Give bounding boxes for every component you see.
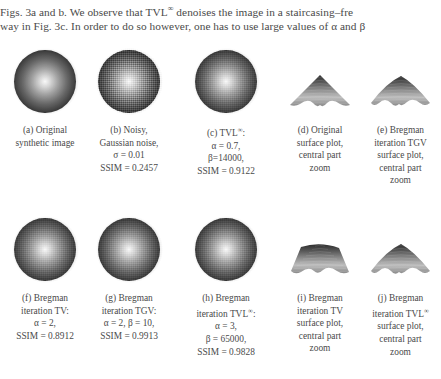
figure-panel-g: (g) Bregmaniteration TGV:α = 2, β = 10,S… <box>88 212 170 342</box>
figure-panel-j: (j) Bregmaniteration TVL∞surface plot,ce… <box>360 212 441 358</box>
figure-thumbnail-e <box>360 44 441 119</box>
caption-line: iteration TGV: <box>88 305 170 318</box>
figure-panel-c: (c) TVL∞:α = 0.7,β=14000,SSIM = 0.9122 <box>172 44 280 178</box>
surface-plot-i <box>287 235 353 283</box>
caption-line: β = 65000, <box>172 333 280 346</box>
figure-row-bottom: (f) Bregmaniteration TV:α = 2,SSIM = 0.8… <box>0 212 441 379</box>
infinity-superscript: ∞ <box>168 4 174 13</box>
caption-line: (d) Original <box>282 124 358 137</box>
figure-panel-b: (b) Noisy,Gaussian noise,σ = 0.01SSIM = … <box>88 44 170 174</box>
infinity-superscript: ∞ <box>248 307 253 314</box>
figure-thumbnail-d <box>282 44 358 119</box>
figure-thumbnail-i <box>282 212 358 287</box>
figure-caption-b: (b) Noisy,Gaussian noise,σ = 0.01SSIM = … <box>88 124 170 174</box>
caption-line: α = 2, β = 10, <box>88 317 170 330</box>
figure-panel-f: (f) Bregmaniteration TV:α = 2,SSIM = 0.8… <box>4 212 86 342</box>
figure-caption-j: (j) Bregmaniteration TVL∞surface plot,ce… <box>360 292 441 358</box>
figure-panel-i: (i) Bregmaniteration TVsurface plot,cent… <box>282 212 358 355</box>
caption-line: zoom <box>282 342 358 355</box>
caption-line: β=14000, <box>172 152 280 165</box>
caption-line: (j) Bregman <box>360 292 441 305</box>
caption-line: surface plot, <box>282 137 358 150</box>
caption-line: (f) Bregman <box>4 292 86 305</box>
figure-thumbnail-a <box>4 44 86 119</box>
synthetic-disc-image <box>9 212 82 287</box>
body-line-2: way in Fig. 3c. In order to do so howeve… <box>0 18 441 36</box>
caption-line: surface plot, <box>360 149 441 162</box>
figure-panel-d: (d) Originalsurface plot,central partzoo… <box>282 44 358 174</box>
caption-line: iteration TVL∞: <box>172 305 280 321</box>
figure-caption-e: (e) Bregmaniteration TGVsurface plot,cen… <box>360 124 441 187</box>
infinity-superscript: ∞ <box>424 307 429 314</box>
synthetic-disc-image <box>9 44 82 119</box>
caption-line: (h) Bregman <box>172 292 280 305</box>
caption-line: (i) Bregman <box>282 292 358 305</box>
figure-panel-grid: (a) Originalsynthetic image(b) Noisy,Gau… <box>0 44 441 379</box>
figure-thumbnail-b <box>88 44 170 119</box>
synthetic-disc-image <box>93 212 166 287</box>
disc-layer-edge <box>9 44 82 119</box>
caption-line: iteration TGV <box>360 137 441 150</box>
figure-caption-c: (c) TVL∞:α = 0.7,β=14000,SSIM = 0.9122 <box>172 124 280 178</box>
caption-line: σ = 0.01 <box>88 149 170 162</box>
synthetic-disc-image <box>93 44 166 119</box>
disc-layer-edge <box>190 44 263 119</box>
caption-line: iteration TV <box>282 305 358 318</box>
figure-panel-h: (h) Bregmaniteration TVL∞:α = 3,β = 6500… <box>172 212 280 358</box>
disc-layer-edge <box>9 212 82 287</box>
caption-line: (a) Original <box>4 124 86 137</box>
caption-line: central part <box>282 330 358 343</box>
figure-row-top: (a) Originalsynthetic image(b) Noisy,Gau… <box>0 44 441 212</box>
infinity-superscript: ∞ <box>238 126 243 133</box>
figure-thumbnail-h <box>172 212 280 287</box>
caption-line: synthetic image <box>4 137 86 150</box>
caption-line: zoom <box>360 346 441 359</box>
caption-line: (b) Noisy, <box>88 124 170 137</box>
caption-line: central part <box>282 149 358 162</box>
disc-layer-edge <box>93 212 166 287</box>
caption-line: surface plot, <box>282 317 358 330</box>
figure-thumbnail-c <box>172 44 280 119</box>
disc-layer-edge <box>190 212 263 287</box>
caption-line: SSIM = 0.2457 <box>88 162 170 175</box>
caption-line: α = 2, <box>4 317 86 330</box>
caption-line: SSIM = 0.8912 <box>4 330 86 343</box>
figure-thumbnail-g <box>88 212 170 287</box>
caption-line: (e) Bregman <box>360 124 441 137</box>
caption-line: surface plot, <box>360 320 441 333</box>
synthetic-disc-image <box>190 44 263 119</box>
caption-line: SSIM = 0.9122 <box>172 165 280 178</box>
surface-plot-j <box>368 235 434 283</box>
figure-thumbnail-f <box>4 212 86 287</box>
synthetic-disc-image <box>190 212 263 287</box>
figure-thumbnail-j <box>360 212 441 287</box>
disc-layer-edge <box>93 44 166 119</box>
figure-caption-f: (f) Bregmaniteration TV:α = 2,SSIM = 0.8… <box>4 292 86 342</box>
caption-line: zoom <box>360 174 441 187</box>
figure-panel-a: (a) Originalsynthetic image <box>4 44 86 149</box>
figure-caption-a: (a) Originalsynthetic image <box>4 124 86 149</box>
figure-caption-d: (d) Originalsurface plot,central partzoo… <box>282 124 358 174</box>
figure-caption-i: (i) Bregmaniteration TVsurface plot,cent… <box>282 292 358 355</box>
caption-line: SSIM = 0.9828 <box>172 346 280 359</box>
caption-line: zoom <box>282 162 358 175</box>
body-paragraph: Figs. 3a and b. We observe that TVL∞ den… <box>0 0 441 35</box>
caption-line: (c) TVL∞: <box>172 124 280 140</box>
figure-panel-e: (e) Bregmaniteration TGVsurface plot,cen… <box>360 44 441 187</box>
surface-plot-e <box>368 67 434 115</box>
body-line-1: Figs. 3a and b. We observe that TVL∞ den… <box>0 0 441 18</box>
caption-line: iteration TV: <box>4 305 86 318</box>
caption-line: SSIM = 0.9913 <box>88 330 170 343</box>
caption-line: α = 0.7, <box>172 140 280 153</box>
caption-line: Gaussian noise, <box>88 137 170 150</box>
caption-line: iteration TVL∞ <box>360 305 441 321</box>
figure-caption-h: (h) Bregmaniteration TVL∞:α = 3,β = 6500… <box>172 292 280 358</box>
caption-line: central part <box>360 162 441 175</box>
caption-line: central part <box>360 333 441 346</box>
figure-caption-g: (g) Bregmaniteration TGV:α = 2, β = 10,S… <box>88 292 170 342</box>
caption-line: α = 3, <box>172 320 280 333</box>
surface-plot-d <box>287 67 353 115</box>
caption-line: (g) Bregman <box>88 292 170 305</box>
